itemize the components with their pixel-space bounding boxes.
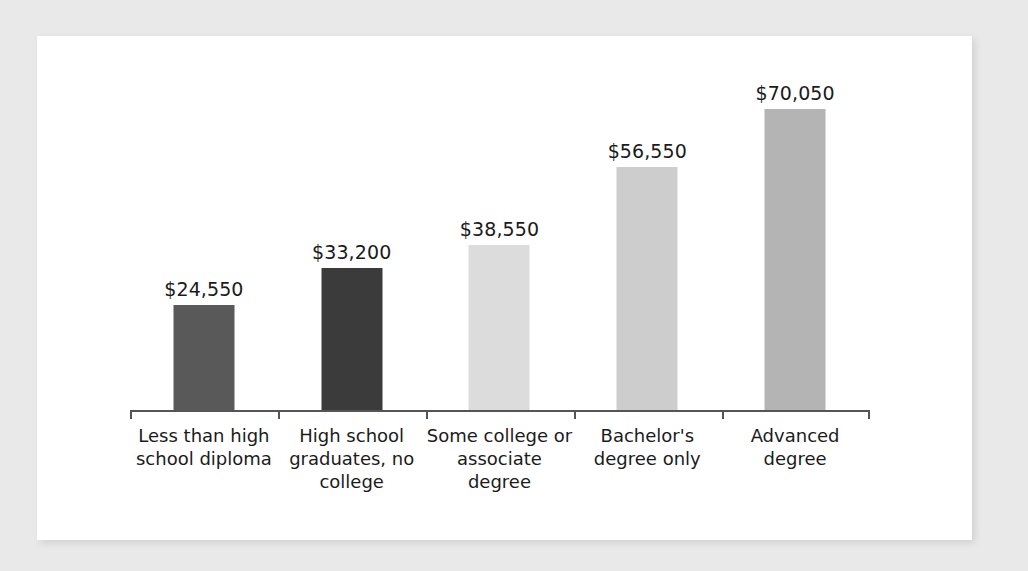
category-label: Less than high school diploma	[130, 424, 278, 470]
category-label: High school graduates, no college	[278, 424, 426, 493]
plot-area: $24,550$33,200$38,550$56,550$70,050 Less…	[37, 36, 972, 540]
x-axis-line	[130, 410, 869, 412]
bar[interactable]	[173, 305, 234, 411]
bar[interactable]	[321, 268, 382, 411]
bar[interactable]	[617, 167, 678, 411]
bar-value-label: $33,200	[312, 241, 391, 263]
category-label: Some college or associate degree	[426, 424, 574, 493]
bar[interactable]	[469, 245, 530, 411]
bar[interactable]	[765, 109, 826, 411]
bar-value-label: $70,050	[755, 82, 834, 104]
bar-value-label: $24,550	[164, 278, 243, 300]
axis-tick	[868, 410, 870, 419]
bar-value-label: $56,550	[608, 140, 687, 162]
axis-tick	[574, 410, 576, 419]
category-label: Advanced degree	[721, 424, 869, 470]
axis-tick	[278, 410, 280, 419]
chart-card: $24,550$33,200$38,550$56,550$70,050 Less…	[37, 36, 972, 540]
axis-tick	[130, 410, 132, 419]
axis-tick	[426, 410, 428, 419]
bar-value-label: $38,550	[460, 218, 539, 240]
chart-page: $24,550$33,200$38,550$56,550$70,050 Less…	[0, 0, 1028, 571]
category-label: Bachelor's degree only	[573, 424, 721, 470]
axis-tick	[722, 410, 724, 419]
